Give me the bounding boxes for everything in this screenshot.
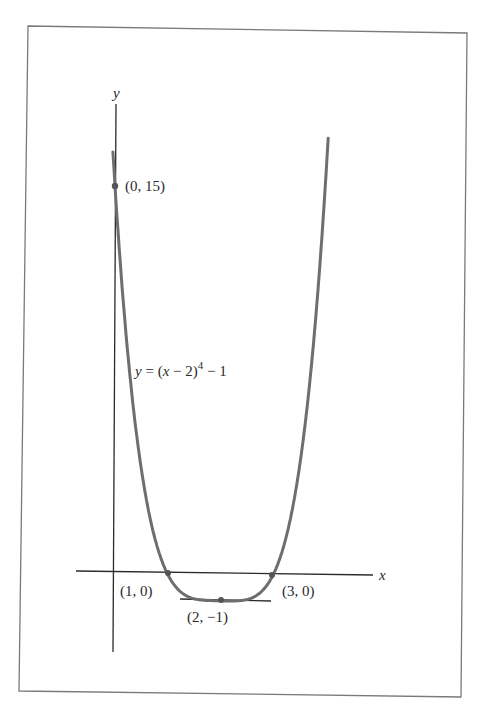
frame-border bbox=[19, 26, 467, 697]
function-label: y = (x − 2)4 − 1 bbox=[133, 359, 227, 380]
point-0-15 bbox=[112, 183, 118, 189]
x-axis-label: x bbox=[378, 567, 386, 583]
x-axis bbox=[76, 571, 373, 575]
label-2-m1: (2, −1) bbox=[187, 609, 228, 626]
point-1-0 bbox=[165, 570, 171, 576]
y-axis-label: y bbox=[111, 85, 120, 101]
label-1-0: (1, 0) bbox=[120, 583, 153, 600]
label-0-15: (0, 15) bbox=[125, 178, 165, 195]
point-3-0 bbox=[269, 572, 275, 578]
label-3-0: (3, 0) bbox=[282, 583, 315, 600]
point-2-m1 bbox=[218, 597, 224, 603]
chart: y x (0, 15) (1, 0) (3, 0) (2, −1) y = (x… bbox=[0, 0, 485, 716]
